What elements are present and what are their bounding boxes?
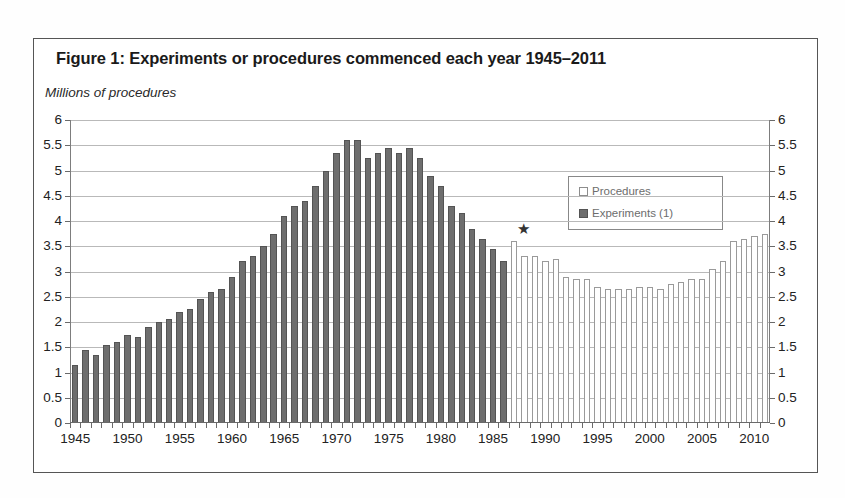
y-axis-tick-label: 0	[26, 416, 62, 430]
x-axis-tick	[383, 423, 384, 428]
bar-1951	[135, 337, 141, 423]
x-axis-tick	[645, 423, 646, 428]
y-axis-tick-label: 3.5	[778, 239, 814, 253]
bar-1957	[197, 299, 203, 423]
bar-1993	[573, 279, 579, 423]
bar-2001	[657, 289, 663, 423]
x-axis-tick-label: 2000	[624, 432, 676, 446]
x-axis-tick-label: 1985	[467, 432, 519, 446]
x-axis-tick-label: 1965	[258, 432, 310, 446]
bar-1981	[448, 206, 454, 423]
bar-1952	[145, 327, 151, 423]
x-axis-tick	[216, 423, 217, 428]
x-axis-tick-label: 1975	[363, 432, 415, 446]
y-axis-tick	[770, 423, 775, 424]
x-axis-tick	[195, 423, 196, 428]
x-axis-tick	[174, 423, 175, 428]
x-axis-tick	[436, 423, 437, 428]
y-axis-tick	[770, 196, 775, 197]
bar-1946	[82, 350, 88, 423]
y-axis-tick-label: 4.5	[778, 189, 814, 203]
y-axis-tick-label: 1	[26, 366, 62, 380]
bar-1988	[521, 256, 527, 423]
x-axis-tick	[718, 423, 719, 428]
y-axis-tick	[65, 373, 70, 374]
y-axis-tick	[65, 272, 70, 273]
x-axis-tick	[164, 423, 165, 428]
y-axis-tick	[65, 221, 70, 222]
x-axis-tick	[603, 423, 604, 428]
bar-1965	[281, 216, 287, 423]
x-axis-tick	[551, 423, 552, 428]
bar-2000	[647, 287, 653, 423]
bar-2010	[751, 236, 757, 423]
x-axis-tick-label: 1945	[49, 432, 101, 446]
x-axis-tick	[728, 423, 729, 428]
bar-1967	[302, 201, 308, 423]
bar-1999	[636, 287, 642, 423]
bar-1962	[250, 256, 256, 423]
x-axis-tick	[571, 423, 572, 428]
x-axis-tick	[498, 423, 499, 428]
y-axis-tick-label: 1.5	[26, 340, 62, 354]
bar-1979	[427, 176, 433, 423]
x-axis-tick	[227, 423, 228, 428]
bar-1974	[375, 153, 381, 423]
x-axis-tick	[415, 423, 416, 428]
bar-1971	[344, 140, 350, 423]
bar-1996	[605, 289, 611, 423]
x-axis-tick	[331, 423, 332, 428]
y-axis-tick-label: 1	[778, 366, 814, 380]
bar-2009	[741, 239, 747, 423]
x-axis-tick	[509, 423, 510, 428]
y-axis-tick-label: 4	[26, 214, 62, 228]
bar-1968	[312, 186, 318, 423]
y-axis-tick	[770, 373, 775, 374]
bar-1987	[511, 241, 517, 423]
bar-1975	[385, 148, 391, 423]
bar-1955	[176, 312, 182, 423]
y-axis-tick-label: 5.5	[778, 138, 814, 152]
y-axis-tick-label: 1.5	[778, 340, 814, 354]
x-axis-tick-label: 1970	[310, 432, 362, 446]
x-axis-tick	[467, 423, 468, 428]
screenshot-root: Figure 1: Experiments or procedures comm…	[0, 0, 845, 498]
bar-1959	[218, 289, 224, 423]
bar-2011	[762, 234, 768, 423]
y-axis-tick	[770, 171, 775, 172]
bar-1963	[260, 246, 266, 423]
bar-1950	[124, 335, 130, 423]
bar-1998	[626, 289, 632, 423]
x-axis-tick	[300, 423, 301, 428]
x-axis-tick-label: 1995	[572, 432, 624, 446]
x-axis-tick	[634, 423, 635, 428]
y-axis-tick-label: 2.5	[778, 290, 814, 304]
x-axis-tick	[206, 423, 207, 428]
bar-1977	[406, 148, 412, 423]
bar-1969	[323, 171, 329, 424]
x-axis-tick	[321, 423, 322, 428]
y-axis-tick	[65, 120, 70, 121]
y-axis-tick-label: 5.5	[26, 138, 62, 152]
bar-1992	[563, 277, 569, 423]
x-axis-tick	[404, 423, 405, 428]
y-axis-tick	[770, 347, 775, 348]
x-axis-tick	[122, 423, 123, 428]
y-axis-tick-label: 0.5	[26, 391, 62, 405]
bar-1980	[438, 186, 444, 423]
x-axis-tick	[363, 423, 364, 428]
y-axis-tick-label: 4.5	[26, 189, 62, 203]
page-title: Figure 1: Experiments or procedures comm…	[56, 49, 606, 68]
bar-2005	[699, 279, 705, 423]
y-axis-tick	[65, 322, 70, 323]
x-axis-tick	[666, 423, 667, 428]
x-axis-tick	[446, 423, 447, 428]
x-axis-tick	[655, 423, 656, 428]
y-axis-tick	[65, 171, 70, 172]
y-axis-tick-label: 3.5	[26, 239, 62, 253]
bar-1989	[532, 256, 538, 423]
x-axis-tick	[749, 423, 750, 428]
x-axis-tick-label: 2005	[676, 432, 728, 446]
x-axis-tick	[457, 423, 458, 428]
bar-1983	[469, 229, 475, 423]
